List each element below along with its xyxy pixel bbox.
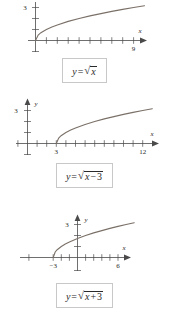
figure-panel-sqrt-x-plus-3: y 3 −3 6 x y=x+3 <box>0 205 169 319</box>
radicand-operator: + <box>89 291 97 302</box>
x-axis-arrowhead <box>152 141 159 147</box>
x-axis-label: x <box>137 27 142 35</box>
equation-sqrt-x: y=x <box>72 65 97 77</box>
plot-area-sqrt-x-plus-3: y 3 −3 6 x <box>0 205 169 281</box>
x-tick-label-9: 9 <box>132 45 136 53</box>
radical-sign-icon: x+3 <box>78 290 103 302</box>
equation-sqrt-x-plus-3: y=x+3 <box>66 290 103 302</box>
figure-panel-sqrt-x: 3 9 x y=x <box>0 0 169 95</box>
x-tick-label-neg3: −3 <box>49 262 57 270</box>
x-tick-label-6: 6 <box>116 262 120 270</box>
x-axis-arrowhead <box>124 255 131 261</box>
y-axis-label: y <box>83 216 88 224</box>
equation-box-sqrt-x-plus-3: y=x+3 <box>56 283 113 308</box>
equation-box-sqrt-x: y=x <box>62 58 107 83</box>
x-tick-label-12: 12 <box>139 148 147 156</box>
equation-box-sqrt-x-minus-3: y=x−3 <box>56 163 113 188</box>
radicand-2: x+3 <box>84 291 103 302</box>
plot-area-sqrt-x-minus-3: y 3 3 12 x <box>0 95 169 163</box>
radicand-0: x <box>90 66 96 77</box>
equation-equals: = <box>70 291 78 302</box>
figure-panel-sqrt-x-minus-3: y 3 3 12 x y=x−3 <box>0 95 169 205</box>
curve-sqrt-x <box>36 6 145 41</box>
chart-svg-sqrt-x: 3 9 x <box>0 0 169 58</box>
radicand-number: 3 <box>97 171 102 182</box>
plot-area-sqrt-x: 3 9 x <box>0 0 169 58</box>
radical-sign-icon: x <box>84 65 96 77</box>
x-axis-label: x <box>149 130 154 138</box>
radical-sign-icon: x−3 <box>78 170 103 182</box>
chart-svg-sqrt-x-minus-3: y 3 3 12 x <box>0 95 169 163</box>
equation-equals: = <box>77 66 85 77</box>
equation-container-sqrt-x-plus-3: y=x+3 <box>0 283 169 308</box>
radicand-number: 3 <box>97 291 102 302</box>
chart-svg-sqrt-x-plus-3: y 3 −3 6 x <box>0 205 169 281</box>
equation-container-sqrt-x: y=x <box>0 58 169 83</box>
y-tick-label-3: 3 <box>14 107 18 115</box>
y-tick-label-3: 3 <box>65 221 69 229</box>
equation-container-sqrt-x-minus-3: y=x−3 <box>0 163 169 188</box>
x-axis-label: x <box>121 244 126 252</box>
radicand-operator: − <box>89 171 97 182</box>
y-axis-arrowhead <box>25 99 31 106</box>
equation-sqrt-x-minus-3: y=x−3 <box>66 170 103 182</box>
curve-sqrt-x-minus-3 <box>56 109 152 144</box>
y-axis-arrowhead <box>75 215 81 222</box>
x-tick-label-3: 3 <box>55 148 59 156</box>
equation-lhs: y <box>72 66 76 77</box>
y-tick-label-3: 3 <box>23 4 27 12</box>
equation-equals: = <box>70 171 78 182</box>
x-axis-arrowhead <box>140 38 147 44</box>
y-axis-label: y <box>33 100 38 108</box>
radicand-1: x−3 <box>84 171 103 182</box>
